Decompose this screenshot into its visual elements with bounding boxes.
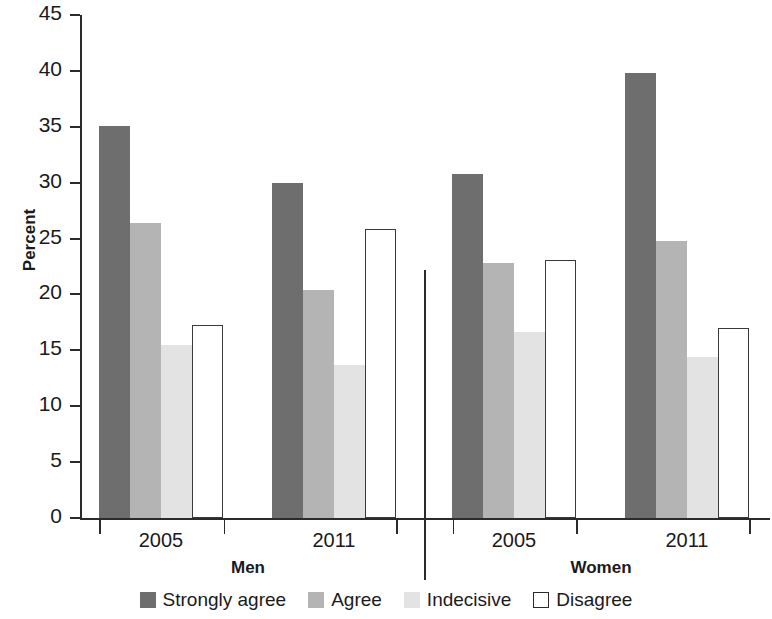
legend-label: Disagree <box>556 589 632 611</box>
x-tick-label-2: 2005 <box>469 529 559 552</box>
legend-swatch-icon-disagree <box>533 592 549 608</box>
y-tick-mark <box>70 349 80 351</box>
y-tick-mark <box>70 293 80 295</box>
bar-women-2011-indecisive <box>687 357 718 518</box>
legend-label: Indecisive <box>427 589 512 611</box>
x-tick-label-3: 2011 <box>642 529 732 552</box>
bar-women-2011-disagree <box>718 328 749 518</box>
legend-item-strongly[interactable]: Strongly agree <box>140 589 287 611</box>
bar-men-2011-agree <box>303 290 334 518</box>
x-tick-mark <box>749 520 751 534</box>
bar-men-2011-disagree <box>365 229 396 519</box>
supergroup-label-women: Women <box>531 558 671 578</box>
bar-women-2005-agree <box>483 263 514 518</box>
y-axis-title: Percent <box>20 180 40 300</box>
bar-men-2011-strongly-agree <box>272 183 303 518</box>
supergroup-label-men: Men <box>178 558 318 578</box>
bar-men-2005-strongly-agree <box>99 126 130 518</box>
bar-men-2005-indecisive <box>161 345 192 518</box>
bar-women-2005-disagree <box>545 260 576 518</box>
x-tick-label-0: 2005 <box>116 529 206 552</box>
legend-label: Strongly agree <box>163 589 287 611</box>
bar-chart: Percent 051015202530354045 2005201120052… <box>0 0 772 619</box>
x-tick-mark <box>453 520 455 534</box>
bar-women-2011-strongly-agree <box>625 73 656 518</box>
y-tick-mark <box>70 126 80 128</box>
y-tick-mark <box>70 70 80 72</box>
plot-area <box>82 15 770 518</box>
supergroup-separator <box>424 270 426 580</box>
y-tick-mark <box>70 461 80 463</box>
x-tick-mark <box>576 520 578 534</box>
x-tick-label-1: 2011 <box>289 529 379 552</box>
bar-women-2005-strongly-agree <box>452 174 483 518</box>
bar-men-2011-indecisive <box>334 365 365 518</box>
legend-swatch-icon-strongly <box>140 592 156 608</box>
x-tick-mark <box>99 520 101 534</box>
chart-legend: Strongly agreeAgreeIndecisiveDisagree <box>0 589 772 611</box>
y-tick-mark <box>70 238 80 240</box>
legend-swatch-icon-agree <box>308 592 324 608</box>
bar-women-2011-agree <box>656 241 687 518</box>
bar-women-2005-indecisive <box>514 332 545 518</box>
x-tick-mark <box>224 520 226 534</box>
legend-item-indecisive[interactable]: Indecisive <box>404 589 512 611</box>
x-tick-mark <box>396 520 398 534</box>
legend-label: Agree <box>331 589 382 611</box>
y-tick-mark <box>70 182 80 184</box>
legend-swatch-icon-indecisive <box>404 592 420 608</box>
y-tick-mark <box>70 405 80 407</box>
y-tick-mark <box>70 517 80 519</box>
legend-item-disagree[interactable]: Disagree <box>533 589 632 611</box>
legend-item-agree[interactable]: Agree <box>308 589 382 611</box>
y-tick-mark <box>70 14 80 16</box>
bar-men-2005-agree <box>130 223 161 518</box>
bar-men-2005-disagree <box>192 325 223 518</box>
